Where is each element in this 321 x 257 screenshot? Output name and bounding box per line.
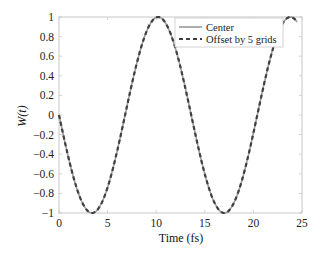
legend: Center Offset by 5 grids bbox=[175, 18, 283, 47]
y-tick-label: −0.4 bbox=[33, 148, 54, 160]
line-chart: −1−0.8−0.6−0.4−0.200.20.40.60.81 0510152… bbox=[0, 0, 321, 257]
x-axis-label: Time (fs) bbox=[159, 231, 204, 245]
x-tick-label: 10 bbox=[150, 217, 162, 229]
y-tick-label: −0.6 bbox=[33, 168, 54, 180]
x-tick-label: 5 bbox=[105, 217, 111, 229]
y-tick-label: 0.4 bbox=[40, 70, 55, 82]
y-tick-label: −1 bbox=[42, 207, 54, 219]
x-tick-label: 15 bbox=[199, 217, 211, 229]
y-tick-label: −0.8 bbox=[33, 187, 54, 199]
y-tick-label: 0.8 bbox=[40, 31, 55, 43]
y-tick-label: 0 bbox=[48, 109, 54, 121]
y-tick-label: 0.2 bbox=[40, 89, 55, 101]
y-axis-label: W(t) bbox=[15, 105, 29, 126]
x-tick-label: 25 bbox=[296, 217, 308, 229]
x-tick-label: 0 bbox=[56, 217, 62, 229]
legend-label-offset: Offset by 5 grids bbox=[206, 34, 277, 45]
legend-label-center: Center bbox=[206, 22, 234, 33]
y-tick-label: −0.2 bbox=[33, 129, 54, 141]
x-tick-label: 20 bbox=[248, 217, 260, 229]
y-tick-label: 0.6 bbox=[40, 50, 55, 62]
y-tick-label: 1 bbox=[48, 11, 54, 23]
